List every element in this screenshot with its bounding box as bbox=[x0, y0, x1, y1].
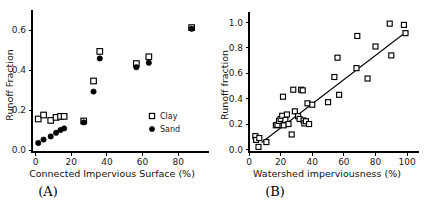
panel-b-x-axis-title: Watershed imperviousness (%) bbox=[253, 168, 401, 179]
y-tick-label: 0.8 bbox=[229, 43, 244, 53]
filled-circle-marker bbox=[48, 134, 53, 139]
panel-b-data-points bbox=[253, 21, 408, 149]
open-square-marker bbox=[355, 33, 360, 38]
x-tick-label: 0 bbox=[33, 157, 39, 167]
filled-circle-marker bbox=[41, 137, 46, 142]
panel-a-legend: ClaySand bbox=[149, 112, 180, 134]
open-square-marker bbox=[337, 92, 342, 97]
x-tick-label: 80 bbox=[370, 157, 382, 167]
filled-circle-marker bbox=[146, 60, 151, 65]
y-tick-label: 0.4 bbox=[229, 94, 244, 104]
y-tick-label: 1.0 bbox=[229, 18, 244, 28]
x-tick-label: 20 bbox=[66, 157, 78, 167]
legend-entry-label: Sand bbox=[160, 125, 180, 134]
open-square-marker bbox=[389, 53, 394, 58]
axis-spines bbox=[249, 12, 419, 152]
panel-a-label: (A) bbox=[38, 184, 58, 199]
open-square-marker bbox=[289, 132, 294, 137]
figure-container: 0204060800.00.20.40.6 ClaySand Connected… bbox=[0, 0, 429, 202]
panel-a-y-axis-title: Runoff Fraction bbox=[4, 49, 15, 121]
x-tick-label: 40 bbox=[307, 157, 319, 167]
open-square-marker bbox=[332, 75, 337, 80]
filled-circle-marker bbox=[91, 89, 96, 94]
x-tick-label: 60 bbox=[137, 157, 149, 167]
open-square-marker bbox=[403, 31, 408, 36]
open-square-marker bbox=[256, 144, 261, 149]
y-tick-label: 0.2 bbox=[229, 119, 243, 129]
x-tick-label: 100 bbox=[399, 157, 416, 167]
panel-b-plot: 0204060801000.00.20.40.60.81.0 Watershed… bbox=[215, 0, 429, 202]
y-tick-label: 0.0 bbox=[229, 145, 244, 155]
open-square-marker bbox=[335, 55, 340, 60]
open-square-marker bbox=[91, 78, 97, 84]
filled-circle-marker bbox=[149, 126, 154, 131]
panel-b: 0204060801000.00.20.40.60.81.0 Watershed… bbox=[215, 0, 429, 202]
y-tick-label: 0.6 bbox=[229, 68, 244, 78]
panel-a: 0204060800.00.20.40.6 ClaySand Connected… bbox=[0, 0, 215, 202]
open-square-marker bbox=[387, 21, 392, 26]
panel-b-label: (B) bbox=[265, 184, 285, 199]
panel-b-axes bbox=[249, 12, 419, 152]
open-square-marker bbox=[35, 116, 41, 122]
y-tick-label: 0.6 bbox=[12, 25, 27, 35]
open-square-marker bbox=[61, 114, 67, 120]
filled-circle-marker bbox=[189, 26, 194, 31]
x-tick-label: 60 bbox=[338, 157, 350, 167]
open-square-marker bbox=[300, 88, 305, 93]
open-square-marker bbox=[149, 113, 154, 118]
panel-a-x-axis-title: Connected Impervious Surface (%) bbox=[29, 168, 195, 179]
open-square-marker bbox=[373, 44, 378, 49]
panel-a-plot: 0204060800.00.20.40.6 ClaySand Connected… bbox=[0, 0, 215, 202]
filled-circle-marker bbox=[134, 65, 139, 70]
legend-entry-label: Clay bbox=[160, 112, 178, 121]
filled-circle-marker bbox=[61, 126, 66, 131]
open-square-marker bbox=[284, 112, 289, 117]
open-square-marker bbox=[354, 66, 359, 71]
open-square-marker bbox=[41, 112, 47, 118]
filled-circle-marker bbox=[81, 120, 86, 125]
panel-b-y-axis-title: Runoff fraction bbox=[219, 50, 230, 120]
open-square-marker bbox=[292, 109, 297, 114]
x-tick-label: 20 bbox=[275, 157, 287, 167]
open-square-marker bbox=[326, 100, 331, 105]
open-square-marker bbox=[401, 22, 406, 27]
open-square-marker bbox=[146, 54, 152, 60]
filled-circle-marker bbox=[97, 56, 102, 61]
open-square-marker bbox=[307, 122, 312, 127]
x-tick-label: 80 bbox=[173, 157, 185, 167]
open-square-marker bbox=[286, 122, 291, 127]
x-tick-label: 0 bbox=[246, 157, 252, 167]
open-square-marker bbox=[257, 136, 262, 141]
filled-circle-marker bbox=[36, 140, 41, 145]
open-square-marker bbox=[280, 94, 285, 99]
open-square-marker bbox=[97, 49, 103, 55]
open-square-marker bbox=[264, 140, 269, 145]
open-square-marker bbox=[310, 102, 315, 107]
open-square-marker bbox=[365, 76, 370, 81]
x-tick-label: 40 bbox=[101, 157, 113, 167]
y-tick-label: 0.0 bbox=[12, 145, 27, 155]
open-square-marker bbox=[48, 118, 54, 124]
open-square-marker bbox=[291, 87, 296, 92]
